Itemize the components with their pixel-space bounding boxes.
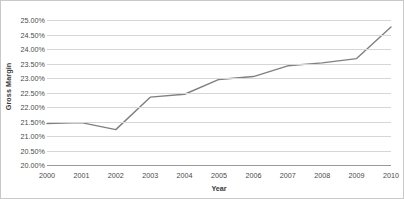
x-axis-tick-label: 2010 <box>383 171 399 180</box>
y-axis-tick-label: 24.50% <box>1 30 45 39</box>
y-axis-tick-label: 23.50% <box>1 59 45 68</box>
gridline <box>47 20 391 21</box>
x-axis-line <box>47 165 391 166</box>
y-axis-tick-label: 21.00% <box>1 132 45 141</box>
x-axis-tick-label: 2003 <box>142 171 158 180</box>
x-axis-tick-labels: 2000200120022003200420052006200720082009… <box>47 171 391 183</box>
x-axis-tick-label: 2007 <box>280 171 296 180</box>
y-axis-tick-label: 22.00% <box>1 103 45 112</box>
gridline <box>47 64 391 65</box>
y-axis-tick-label: 23.00% <box>1 74 45 83</box>
gridline <box>47 78 391 79</box>
gridline <box>47 151 391 152</box>
y-axis-tick-labels: 25.00%24.50%24.00%23.50%23.00%22.50%22.0… <box>1 20 45 165</box>
plot-area <box>47 20 391 165</box>
x-axis-title: Year <box>47 184 391 193</box>
x-axis-tick-label: 2004 <box>177 171 193 180</box>
x-axis-tick-label: 2005 <box>211 171 227 180</box>
y-axis-tick-label: 20.00% <box>1 161 45 170</box>
y-axis-tick-label: 25.00% <box>1 16 45 25</box>
gridline <box>47 93 391 94</box>
x-axis-tick-label: 2008 <box>314 171 330 180</box>
y-axis-tick-label: 20.50% <box>1 146 45 155</box>
gridline <box>47 136 391 137</box>
y-axis-tick-label: 22.50% <box>1 88 45 97</box>
x-axis-tick-label: 2006 <box>245 171 261 180</box>
x-axis-tick-label: 2002 <box>108 171 124 180</box>
gridline <box>47 49 391 50</box>
x-axis-tick-label: 2009 <box>349 171 365 180</box>
x-axis-tick-label: 2000 <box>39 171 55 180</box>
x-axis-tick-label: 2001 <box>73 171 89 180</box>
y-axis-tick-label: 21.50% <box>1 117 45 126</box>
gridline <box>47 107 391 108</box>
gridline <box>47 122 391 123</box>
gross-margin-line-chart: Gross Margin 25.00%24.50%24.00%23.50%23.… <box>0 0 404 199</box>
y-axis-tick-label: 24.00% <box>1 45 45 54</box>
gridline <box>47 35 391 36</box>
